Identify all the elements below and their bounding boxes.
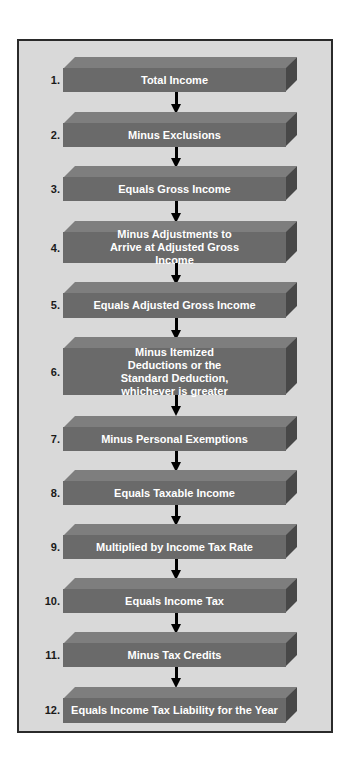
step-number: 2. [38,129,60,141]
step-label: Minus Adjustments to Arrive at Adjusted … [63,232,286,263]
step-label: Minus Exclusions [63,123,286,147]
step-number: 6. [38,366,60,378]
step-label: Minus Tax Credits [63,643,286,667]
step-number: 10. [38,595,60,607]
step-label: Multiplied by Income Tax Rate [63,535,286,559]
step-label: Total Income [63,68,286,92]
step-label: Minus Personal Exemptions [63,427,286,451]
step-label: Equals Gross Income [63,177,286,201]
step-number: 11. [38,649,60,661]
step-label: Equals Taxable Income [63,481,286,505]
step-number: 9. [38,541,60,553]
step-label: Equals Income Tax Liability for the Year [63,698,286,723]
step-label: Equals Income Tax [63,589,286,613]
step-number: 3. [38,183,60,195]
step-number: 12. [38,704,60,716]
step-number: 4. [38,242,60,254]
step-number: 1. [38,74,60,86]
step-label: Equals Adjusted Gross Income [63,293,286,318]
step-number: 7. [38,433,60,445]
step-number: 5. [38,299,60,311]
step-number: 8. [38,487,60,499]
step-label: Minus Itemized Deductions or the Standar… [63,348,286,395]
